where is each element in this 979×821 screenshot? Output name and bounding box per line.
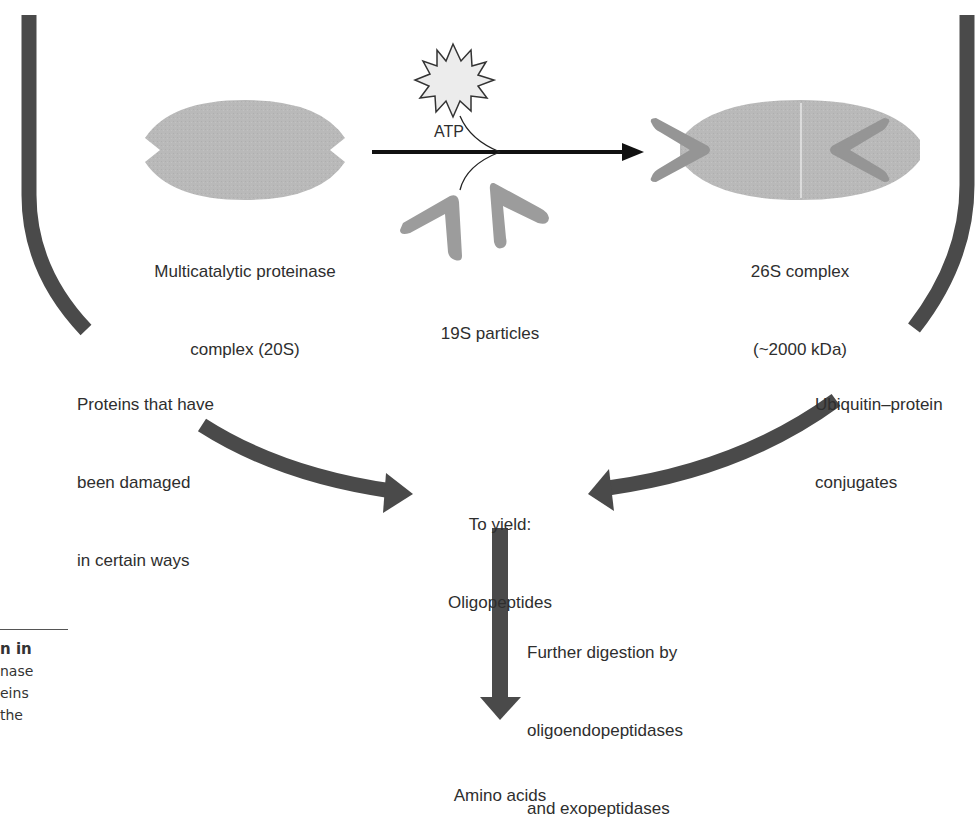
caption-line2: nase [0,660,33,682]
caption-line1: n in [0,638,33,660]
damaged-proteins-line2: been damaged [77,470,214,496]
damaged-proteins-label: Proteins that have been damaged in certa… [77,340,214,600]
atp-text: ATP [434,119,464,145]
oligopeptides-line1: To yield: [420,512,580,538]
caption-line3: eins [0,682,33,704]
caption-divider [0,629,68,630]
ubiquitin-conjugates-label: Ubiquitin–protein conjugates [815,340,943,522]
complex-26s-line1: 26S complex [710,259,890,285]
caption-line4: the [0,704,33,726]
damaged-to-oligopeptides-arrow [202,425,413,513]
amino-acids-text: Amino acids [420,783,580,809]
complex-26s-shape [651,100,920,200]
left-bracket-arrow [29,15,86,330]
ubiquitin-to-oligopeptides-arrow [588,400,836,511]
further-digestion-line1: Further digestion by [527,640,683,666]
right-bracket-arrow [914,15,967,328]
figure-caption-fragment: n in nase eins the [0,638,33,726]
atp-label: ATP [434,67,464,171]
ubiquitin-conjugates-line1: Ubiquitin–protein [815,392,943,418]
particles-19s-shape [400,183,549,261]
proteasome-20s-line1: Multicatalytic proteinase [120,259,370,285]
particles-19s-text: 19S particles [410,321,570,347]
atp-connector [460,116,500,152]
amino-acids-label: Amino acids [420,731,580,821]
assembly-arrow [372,143,644,161]
damaged-proteins-line3: in certain ways [77,548,214,574]
ubiquitin-conjugates-line2: conjugates [815,470,943,496]
particles-19s-label: 19S particles [410,269,570,373]
proteasome-20s-shape [145,100,345,200]
damaged-proteins-line1: Proteins that have [77,392,214,418]
